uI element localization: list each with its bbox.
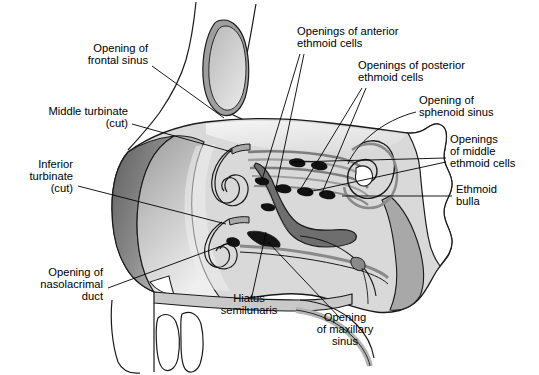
label-line: Hiatus xyxy=(233,292,265,304)
label-line: sinus xyxy=(332,335,359,347)
frontal-sinus xyxy=(203,20,249,116)
label-line: (cut) xyxy=(106,117,129,129)
label-line: Openings of anterior xyxy=(297,25,399,37)
label-line: semilunaris xyxy=(221,304,278,316)
label-line: bulla xyxy=(456,195,480,207)
label-opening-of-frontal-sinus: Opening offrontal sinus xyxy=(88,42,149,66)
label-line: Ethmoid xyxy=(456,183,497,195)
label-line: duct xyxy=(82,290,104,302)
label-line: (cut) xyxy=(51,182,74,194)
label-line: ethmoid cells xyxy=(297,37,363,49)
label-line: frontal sinus xyxy=(88,54,149,66)
label-line: of maxillary xyxy=(317,323,374,335)
label-line: ethmoid cells xyxy=(450,157,516,169)
label-line: Middle turbinate xyxy=(48,105,128,117)
label-line: Opening of xyxy=(93,42,149,54)
label-line: of middle xyxy=(450,145,495,157)
label-line: Openings xyxy=(450,133,498,145)
label-line: Inferior xyxy=(38,158,73,170)
label-line: nasolacrimal xyxy=(40,278,103,290)
label-line: Openings of posterior xyxy=(358,59,465,71)
label-line: Opening of xyxy=(48,266,104,278)
label-line: Opening of xyxy=(419,94,475,106)
label-line: Opening xyxy=(324,311,366,323)
label-line: turbinate xyxy=(29,170,73,182)
label-line: ethmoid cells xyxy=(358,71,424,83)
figure-canvas: Opening offrontal sinusMiddle turbinate(… xyxy=(0,0,539,375)
label-line: sphenoid sinus xyxy=(419,106,494,118)
